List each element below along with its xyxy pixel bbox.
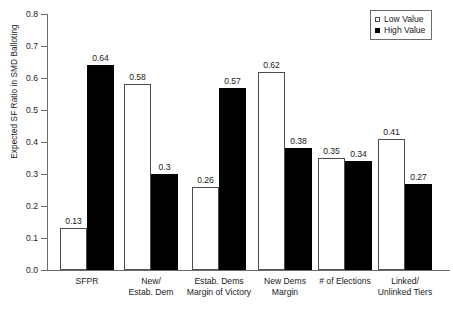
- bar-value-label: 0.62: [252, 61, 291, 70]
- filled-square-icon: [375, 28, 380, 33]
- y-axis-tick: [41, 110, 47, 111]
- bar-low-3: [258, 72, 285, 270]
- bar-high-4: [345, 161, 372, 270]
- y-axis-tick-label: 0.4: [0, 138, 38, 147]
- legend-item-low-value: Low Value: [375, 14, 425, 25]
- y-axis-tick-label: 0.8: [0, 10, 38, 19]
- x-axis-line: [47, 270, 450, 271]
- bar-value-label: 0.34: [339, 150, 378, 159]
- y-axis-title: Expected SF Ratio in SMD Balloting: [10, 0, 19, 192]
- x-axis-label-line: Unlinked Tiers: [345, 287, 453, 298]
- y-axis-tick: [41, 174, 47, 175]
- legend-item-high-value: High Value: [375, 25, 425, 36]
- x-axis-label-5: Linked/Unlinked Tiers: [345, 276, 453, 297]
- bar-high-0: [87, 65, 114, 270]
- bar-high-2: [219, 88, 246, 270]
- bar-high-1: [151, 174, 178, 270]
- y-axis-tick: [41, 238, 47, 239]
- y-axis-tick: [41, 14, 47, 15]
- x-axis-label-line: Linked/: [345, 276, 453, 287]
- bar-value-label: 0.58: [118, 73, 157, 82]
- bar-value-label: 0.41: [372, 128, 411, 137]
- open-square-icon: [375, 17, 380, 22]
- y-axis-tick: [41, 206, 47, 207]
- legend-label-low-value: Low Value: [384, 15, 424, 24]
- x-axis-label-line: Margin: [225, 287, 345, 298]
- bar-high-3: [285, 148, 312, 270]
- bar-chart: Expected SF Ratio in SMD Balloting 0.80.…: [0, 0, 453, 310]
- y-axis-tick-label: 0.5: [0, 106, 38, 115]
- y-axis-tick: [41, 270, 47, 271]
- bar-value-label: 0.38: [279, 137, 318, 146]
- bar-low-4: [318, 158, 345, 270]
- y-axis-tick: [41, 78, 47, 79]
- y-axis-tick-label: 0.1: [0, 234, 38, 243]
- legend-label-high-value: High Value: [384, 26, 425, 35]
- bar-value-label: 0.27: [399, 173, 438, 182]
- y-axis-tick-label: 0.0: [0, 266, 38, 275]
- y-axis-tick: [41, 142, 47, 143]
- bar-value-label: 0.3: [145, 163, 184, 172]
- bar-low-1: [124, 84, 151, 270]
- bar-low-5: [378, 139, 405, 270]
- y-axis-tick-label: 0.2: [0, 202, 38, 211]
- bar-low-0: [60, 228, 87, 270]
- y-axis-tick-label: 0.7: [0, 42, 38, 51]
- plot-area: 0.130.640.580.30.260.570.620.380.350.340…: [48, 14, 450, 270]
- bar-low-2: [192, 187, 219, 270]
- y-axis-tick: [41, 46, 47, 47]
- bar-value-label: 0.64: [81, 54, 120, 63]
- chart-legend: Low Value High Value: [370, 10, 432, 40]
- bar-value-label: 0.57: [213, 77, 252, 86]
- bar-high-5: [405, 184, 432, 270]
- y-axis-tick-label: 0.3: [0, 170, 38, 179]
- y-axis-tick-label: 0.6: [0, 74, 38, 83]
